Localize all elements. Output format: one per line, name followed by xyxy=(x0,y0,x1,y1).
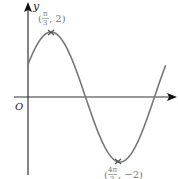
origin-label: O xyxy=(15,101,23,112)
svg-text:4π: 4π xyxy=(108,166,117,174)
svg-text:, 2): , 2) xyxy=(49,13,66,24)
sine-graph: y O ( π 3 , 2) ( 4π 3 , −2) xyxy=(0,0,178,179)
svg-text:(: ( xyxy=(38,13,42,24)
min-point-label: ( 4π 3 , −2) xyxy=(104,166,143,179)
y-axis-label: y xyxy=(32,0,40,13)
svg-text:π: π xyxy=(43,10,48,18)
svg-text:3: 3 xyxy=(110,175,114,179)
svg-text:3: 3 xyxy=(43,19,47,27)
svg-text:, −2): , −2) xyxy=(118,169,143,179)
max-point-label: ( π 3 , 2) xyxy=(38,10,66,27)
